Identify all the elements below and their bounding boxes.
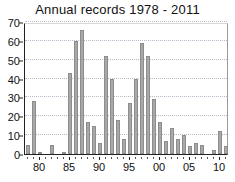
y-axis-tick <box>19 98 23 99</box>
x-axis-tick-minor <box>171 157 172 159</box>
x-axis-tick-minor <box>33 157 34 159</box>
bar <box>116 120 119 154</box>
bar <box>164 141 167 154</box>
x-axis-tick <box>69 157 70 160</box>
bar <box>140 43 143 154</box>
bar <box>122 139 125 154</box>
bar <box>104 56 107 154</box>
y-axis-tick <box>19 23 23 24</box>
x-axis-tick <box>129 157 130 160</box>
x-axis-tick-minor <box>135 157 136 159</box>
bar <box>152 99 155 154</box>
bar <box>200 145 203 154</box>
x-axis-tick <box>159 157 160 160</box>
x-axis-tick-minor <box>51 157 52 159</box>
x-axis-tick-label: 85 <box>63 161 75 173</box>
bar <box>92 126 95 154</box>
chart-title: Annual records 1978 - 2011 <box>0 2 235 17</box>
x-axis-tick-minor <box>213 157 214 159</box>
bar <box>218 131 221 154</box>
x-axis-tick <box>99 157 100 160</box>
x-axis-tick <box>219 157 220 160</box>
x-axis-tick-label: 80 <box>33 161 45 173</box>
bar-chart: Annual records 1978 - 2011 0102030405060… <box>0 0 235 182</box>
x-axis-tick-minor <box>117 157 118 159</box>
x-axis-tick-minor <box>57 157 58 159</box>
x-axis-tick-label: 00 <box>153 161 165 173</box>
x-axis-tick-minor <box>45 157 46 159</box>
x-axis-tick-minor <box>207 157 208 159</box>
bar <box>32 101 35 154</box>
x-axis-tick-minor <box>201 157 202 159</box>
x-axis-tick-label: 10 <box>213 161 225 173</box>
plot-area <box>24 23 228 155</box>
x-axis-tick-minor <box>147 157 148 159</box>
bar <box>74 41 77 154</box>
x-axis-tick-minor <box>63 157 64 159</box>
bar <box>212 150 215 154</box>
x-axis-tick-minor <box>93 157 94 159</box>
x-axis-tick-minor <box>105 157 106 159</box>
bar <box>194 143 197 154</box>
x-axis-tick-minor <box>27 157 28 159</box>
bar <box>128 103 131 154</box>
y-axis-tick <box>19 136 23 137</box>
x-axis-tick-minor <box>183 157 184 159</box>
x-axis-tick-label: 90 <box>93 161 105 173</box>
bar <box>38 152 41 154</box>
bar <box>182 135 185 154</box>
x-axis-tick-minor <box>195 157 196 159</box>
x-axis-tick-minor <box>111 157 112 159</box>
x-axis-tick <box>189 157 190 160</box>
bar <box>176 139 179 154</box>
bar <box>158 122 161 154</box>
x-axis-tick-minor <box>165 157 166 159</box>
x-axis-tick-minor <box>75 157 76 159</box>
bar <box>146 56 149 154</box>
x-axis: 80859095000510 <box>24 157 228 177</box>
bar <box>110 79 113 154</box>
bar <box>224 146 227 154</box>
x-axis-tick-minor <box>81 157 82 159</box>
bar <box>50 145 53 154</box>
bar <box>188 146 191 154</box>
y-axis: 010203040506070 <box>0 23 22 155</box>
bar-series <box>25 24 227 154</box>
x-axis-tick-label: 05 <box>183 161 195 173</box>
y-axis-tick <box>19 117 23 118</box>
y-axis-tick <box>19 41 23 42</box>
x-axis-tick-minor <box>153 157 154 159</box>
x-axis-tick-minor <box>87 157 88 159</box>
bar <box>62 152 65 154</box>
bar <box>170 128 173 154</box>
x-axis-tick-minor <box>123 157 124 159</box>
bar <box>86 122 89 154</box>
x-axis-tick-minor <box>177 157 178 159</box>
bar <box>134 79 137 154</box>
bar <box>68 73 71 154</box>
y-axis-tick <box>19 60 23 61</box>
bar <box>98 143 101 154</box>
x-axis-tick-minor <box>225 157 226 159</box>
y-axis-tick <box>19 155 23 156</box>
y-axis-tick <box>19 79 23 80</box>
bar <box>80 30 83 154</box>
x-axis-tick <box>39 157 40 160</box>
gridline <box>25 21 227 22</box>
x-axis-tick-minor <box>141 157 142 159</box>
x-axis-tick-label: 95 <box>123 161 135 173</box>
bar <box>26 145 29 154</box>
